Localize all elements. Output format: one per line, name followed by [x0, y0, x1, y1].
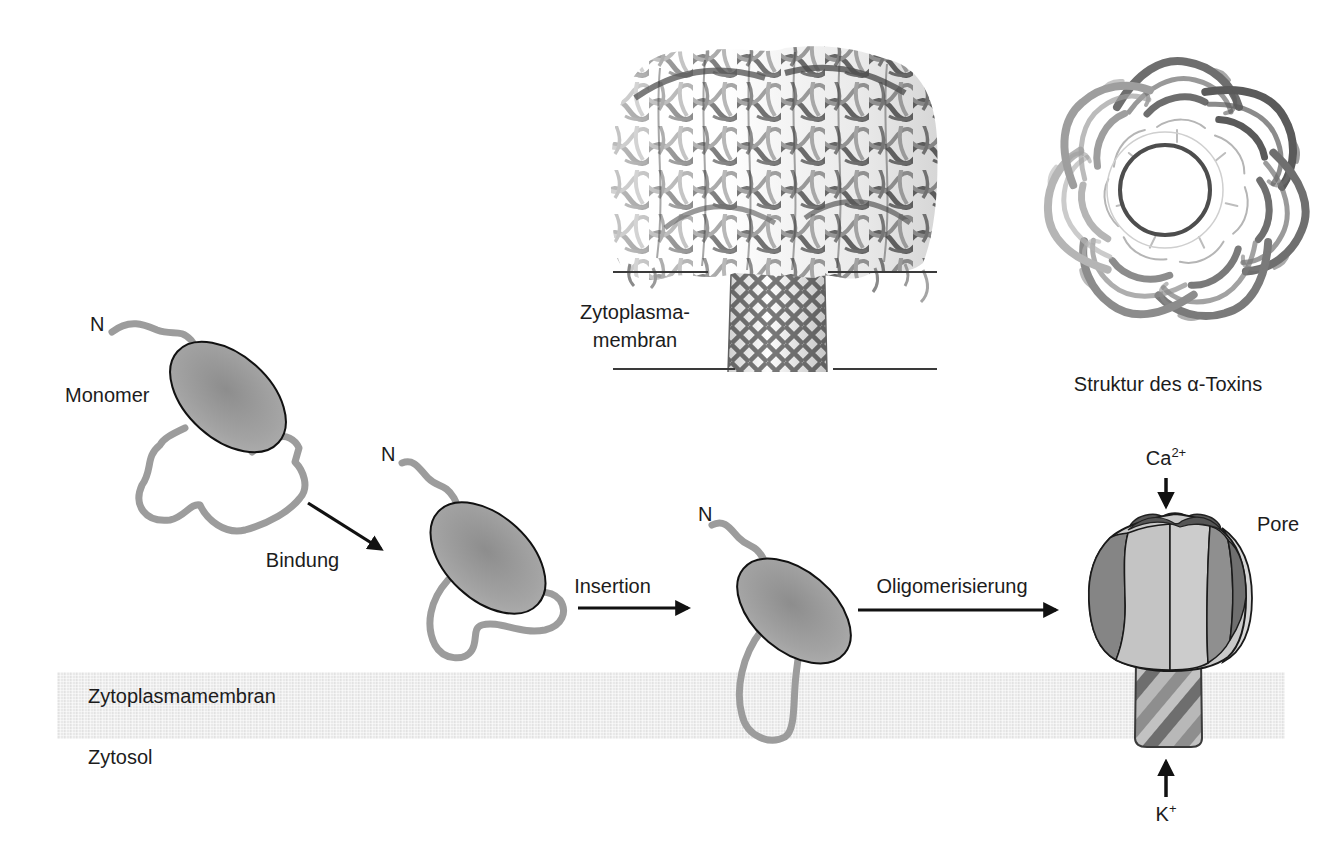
side-view-membrane-label: Zytoplasma- membran	[552, 298, 718, 354]
n-terminus-label-2: N	[381, 442, 395, 466]
monomer-body	[149, 320, 306, 473]
n-terminus-label-1: N	[90, 312, 104, 336]
monomer-1	[85, 315, 325, 560]
side-view-membrane-label-line1: Zytoplasma-	[580, 301, 690, 323]
membrane-label: Zytoplasmamembran	[88, 684, 276, 708]
potassium-ion-label: K+	[1128, 802, 1204, 826]
side-view-membrane-label-line2: membran	[593, 329, 677, 351]
potassium-charge: +	[1169, 801, 1177, 816]
insertion-step-label: Insertion	[550, 574, 675, 598]
pore-cap-segments	[1089, 523, 1246, 670]
alpha-toxin-pore-formation-diagram: Zytoplasma- membran	[0, 0, 1342, 864]
ribbon-cap	[611, 46, 938, 302]
top-view-caption: Struktur des α-Toxins	[1040, 372, 1296, 396]
calcium-charge: 2+	[1171, 445, 1186, 460]
assembled-pore	[1080, 500, 1275, 760]
monomer-label: Monomer	[65, 383, 149, 407]
monomer-2-bound	[390, 448, 610, 673]
oligomerization-step-label: Oligomerisierung	[862, 574, 1042, 598]
potassium-symbol: K	[1156, 803, 1169, 825]
n-terminus-label-3: N	[698, 502, 712, 526]
calcium-symbol: Ca	[1146, 447, 1172, 469]
pore-transmembrane-stem	[1135, 660, 1202, 747]
pore-label: Pore	[1257, 512, 1299, 536]
calcium-ion-label: Ca2+	[1128, 446, 1204, 470]
monomer-body	[718, 538, 871, 684]
alpha-toxin-top-view-ribbon	[1012, 30, 1342, 365]
cytosol-label: Zytosol	[88, 745, 152, 769]
central-pore-channel	[1120, 145, 1210, 235]
binding-step-label: Bindung	[240, 548, 365, 572]
monomer-3-inserted	[695, 498, 910, 758]
